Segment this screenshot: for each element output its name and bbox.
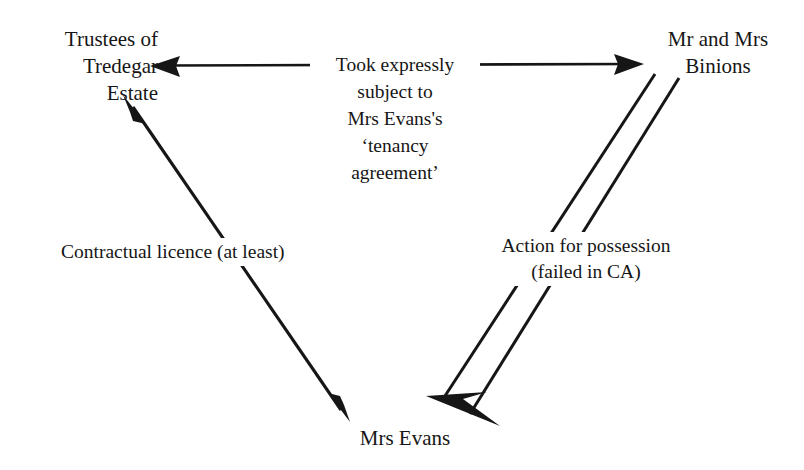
edge-label-contractual-licence: Contractual licence (at least) — [58, 238, 354, 266]
node-mrs-evans: Mrs Evans — [330, 425, 480, 452]
edge-label-took-expressly-subject-to: Took expressly subject to Mrs Evans's ‘t… — [310, 50, 480, 187]
node-mr-and-mrs-binions: Mr and Mrs Binions — [636, 26, 800, 80]
diagram-canvas: Trustees of Tredegar Estate Mr and Mrs B… — [0, 0, 804, 470]
node-trustees-of-tredegar-estate: Trustees of Tredegar Estate — [18, 26, 158, 107]
possession-arrowhead-large — [426, 392, 500, 426]
edge-label-action-for-possession: Action for possession (failed in CA) — [472, 232, 700, 286]
